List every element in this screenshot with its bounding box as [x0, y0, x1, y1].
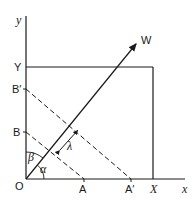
- y-axis-label: y: [15, 13, 22, 27]
- point-aprime-label: A′: [125, 183, 134, 195]
- point-x-label: X: [149, 182, 158, 196]
- w-vector: [26, 44, 136, 179]
- wavefront-line-b-a: [26, 132, 84, 179]
- point-y-label: Y: [14, 61, 22, 73]
- beta-label: β: [27, 150, 34, 164]
- alpha-label: α: [40, 162, 47, 176]
- point-a-label: A: [79, 183, 87, 195]
- origin-label: O: [15, 180, 24, 192]
- point-bprime-label: B′: [12, 83, 21, 95]
- x-axis-label: x: [181, 182, 188, 196]
- diagram-canvas: y x Y B′ B O A A′ X W λ α β: [0, 0, 195, 203]
- lambda-label: λ: [66, 139, 72, 153]
- vector-w-label: W: [141, 34, 152, 46]
- point-b-label: B: [13, 126, 20, 138]
